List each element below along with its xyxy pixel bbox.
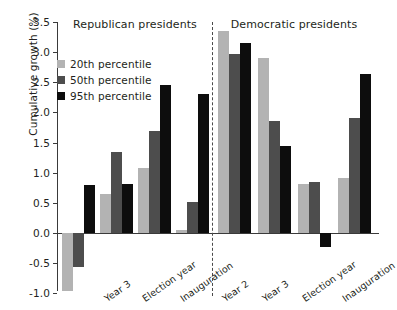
bar (122, 184, 133, 233)
legend-item: 20th percentile (57, 57, 151, 71)
y-tick-label: 3.0 (20, 46, 50, 58)
y-tick-mark (53, 233, 57, 234)
y-tick-label: 1.0 (20, 167, 50, 179)
y-tick-mark (53, 173, 57, 174)
bar (280, 146, 291, 233)
y-tick-label: -0.5 (20, 257, 50, 269)
bar (240, 43, 251, 233)
bar (298, 184, 309, 233)
y-tick-mark (53, 22, 57, 23)
bar (149, 131, 160, 233)
y-tick-label: 2.0 (20, 106, 50, 118)
y-tick-mark (53, 52, 57, 53)
legend-label: 50th percentile (70, 74, 151, 86)
bar (360, 74, 371, 233)
bar (138, 168, 149, 233)
y-tick-label: 0.5 (20, 197, 50, 209)
bar (269, 121, 280, 233)
bar (160, 85, 171, 233)
category-label: Year 3 (102, 278, 133, 304)
bar (229, 54, 240, 233)
y-tick-mark (53, 143, 57, 144)
legend-label: 20th percentile (70, 58, 151, 70)
bar (62, 233, 73, 291)
legend-swatch-icon (57, 76, 65, 84)
bar (198, 94, 209, 233)
legend-swatch-icon (57, 60, 65, 68)
bar (320, 233, 331, 247)
category-label: Year 2 (220, 278, 251, 304)
y-tick-mark (53, 293, 57, 294)
y-tick-mark (53, 112, 57, 113)
bar (218, 31, 229, 233)
section-title-republican: Republican presidents (60, 18, 210, 31)
bar (111, 152, 122, 233)
section-title-democratic: Democratic presidents (214, 18, 374, 31)
bar (338, 178, 349, 233)
bar (187, 202, 198, 233)
bar (73, 233, 84, 267)
bar (309, 182, 320, 233)
category-label: Year 3 (260, 278, 291, 304)
legend-swatch-icon (57, 92, 65, 100)
y-tick-label: -1.0 (20, 287, 50, 299)
y-tick-label: 3.5 (20, 16, 50, 28)
bar (258, 58, 269, 233)
y-tick-label: 0.0 (20, 227, 50, 239)
legend-item: 95th percentile (57, 89, 151, 103)
bar (176, 230, 187, 233)
bar (100, 194, 111, 233)
bar (84, 185, 95, 233)
panel-divider (212, 22, 213, 296)
y-tick-mark (53, 263, 57, 264)
legend: 20th percentile50th percentile95th perce… (57, 57, 151, 105)
y-tick-label: 2.5 (20, 76, 50, 88)
y-tick-mark (53, 203, 57, 204)
legend-item: 50th percentile (57, 73, 151, 87)
bar (349, 118, 360, 233)
legend-label: 95th percentile (70, 90, 151, 102)
y-tick-label: 1.5 (20, 137, 50, 149)
